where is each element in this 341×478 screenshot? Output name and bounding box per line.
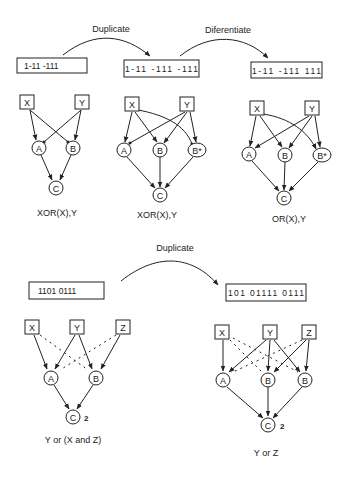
node-label: C	[53, 184, 60, 194]
weight-code: 1-11 -111 111	[252, 66, 321, 76]
panel-y-or-z: 101 01111 0111 X Y Z A B B C 2 Y or Z	[215, 284, 316, 458]
node-label: B*	[317, 151, 327, 161]
node-label: Y	[79, 98, 85, 108]
node-label: X	[219, 328, 225, 338]
duplicate-arrow-top: Duplicate	[63, 24, 150, 56]
node-label: B	[302, 376, 308, 386]
node-label: X	[29, 323, 35, 333]
threshold-value: 2	[280, 422, 285, 431]
node-label: A	[220, 376, 226, 386]
duplicate-label-top: Duplicate	[92, 24, 130, 34]
node-label: A	[121, 146, 127, 156]
node-label: X	[24, 98, 30, 108]
node-label: X	[254, 104, 260, 114]
node-label: A	[48, 374, 54, 384]
node-label: A	[36, 144, 42, 154]
differentiate-arrow: Diferentiate	[180, 25, 268, 58]
node-label: C	[281, 194, 288, 204]
node-label: B	[70, 144, 76, 154]
function-caption: XOR(X),Y	[137, 210, 177, 220]
node-label: Z	[120, 323, 126, 333]
node-label: C	[157, 191, 164, 201]
weight-code: 1-11 -111	[24, 61, 59, 71]
function-caption: XOR(X),Y	[37, 208, 77, 218]
panel-xor-duplicated: 1-11 -111 -111 X Y A B B* C XOR(X),Y	[117, 60, 206, 220]
weight-code: 1-11 -111 -111	[125, 64, 198, 74]
function-caption: Y or (X and Z)	[45, 435, 101, 445]
node-label: C	[265, 421, 272, 431]
function-caption: OR(X),Y	[272, 214, 306, 224]
node-label: A	[246, 150, 252, 160]
panel-xor-original: 1-11 -111 X Y A B C XOR(X),Y	[17, 58, 89, 218]
function-caption: Y or Z	[254, 448, 279, 458]
node-label: Y	[74, 323, 80, 333]
node-label: B	[265, 376, 271, 386]
node-label: Y	[184, 100, 190, 110]
network-diagram: Duplicate Diferentiate 1-11 -111 X Y A B…	[0, 0, 341, 478]
node-label: C	[70, 413, 77, 423]
duplicate-arrow-bottom: Duplicate	[121, 243, 218, 285]
threshold-value: 2	[84, 414, 89, 423]
node-label: Y	[267, 328, 273, 338]
node-label: Z	[306, 328, 312, 338]
panel-y-or-x-and-z: 1101 0111 X Y Z A B C 2 Y or (X and Z)	[25, 282, 130, 445]
node-label: Y	[309, 104, 315, 114]
node-label: B	[93, 374, 99, 384]
duplicate-label-bottom: Duplicate	[156, 243, 194, 253]
panel-or-differentiated: 1-11 -111 111 X Y A B B* C OR(X),Y	[242, 62, 331, 224]
differentiate-label: Diferentiate	[205, 25, 251, 35]
node-label: B	[157, 146, 163, 156]
node-label: X	[129, 100, 135, 110]
node-label: B*	[192, 146, 202, 156]
weight-code: 1101 0111	[38, 286, 77, 296]
weight-code: 101 01111 0111	[228, 288, 304, 298]
node-label: B	[282, 151, 288, 161]
